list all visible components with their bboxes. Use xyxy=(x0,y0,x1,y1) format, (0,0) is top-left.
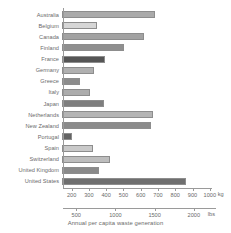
category-label: Canada xyxy=(0,34,62,40)
chart-row: Spain xyxy=(0,143,231,154)
category-label: Italy xyxy=(0,89,62,95)
category-label: Spain xyxy=(0,145,62,151)
bar-track xyxy=(62,120,231,131)
bar xyxy=(62,22,97,29)
chart-row: New Zealand xyxy=(0,120,231,131)
chart-row: Netherlands xyxy=(0,109,231,120)
bar xyxy=(62,178,186,185)
category-label: United States xyxy=(0,178,62,184)
bar xyxy=(62,89,90,96)
x-tick-label-kg: 200 xyxy=(67,192,76,199)
category-label: Australia xyxy=(0,12,62,18)
bar xyxy=(62,33,144,40)
bar xyxy=(62,122,151,129)
category-label: Belgium xyxy=(0,23,62,29)
bar-track xyxy=(62,9,231,20)
category-label: Switzerland xyxy=(0,156,62,162)
x-tick-lbs xyxy=(155,208,156,211)
bar-track xyxy=(62,20,231,31)
bar-track xyxy=(62,87,231,98)
x-tick-kg xyxy=(210,188,211,191)
bar-track xyxy=(62,31,231,42)
bar-track xyxy=(62,76,231,87)
chart-row: United Kingdom xyxy=(0,165,231,176)
category-label: Portugal xyxy=(0,134,62,140)
x-tick-kg xyxy=(106,188,107,191)
x-tick-label-lbs: 500 xyxy=(72,212,81,219)
bar xyxy=(62,44,124,51)
bar xyxy=(62,56,105,63)
bar-track xyxy=(62,131,231,142)
x-tick-label-kg: 1000 xyxy=(204,192,216,199)
x-tick-kg xyxy=(175,188,176,191)
chart-row: Italy xyxy=(0,87,231,98)
chart-row: Japan xyxy=(0,98,231,109)
x-axis-unit-lbs: lbs xyxy=(208,211,215,218)
bar xyxy=(62,156,110,163)
bar xyxy=(62,11,155,18)
x-tick-kg xyxy=(72,188,73,191)
x-tick-kg xyxy=(193,188,194,191)
x-tick-lbs xyxy=(76,208,77,211)
chart-row: Canada xyxy=(0,31,231,42)
category-label: Netherlands xyxy=(0,112,62,118)
x-tick-kg xyxy=(141,188,142,191)
chart-row: Greece xyxy=(0,76,231,87)
bar xyxy=(62,100,104,107)
category-label: New Zealand xyxy=(0,123,62,129)
x-axis-title: Annual per capita waste generation xyxy=(0,219,231,227)
chart-row: Australia xyxy=(0,9,231,20)
category-label: Finland xyxy=(0,45,62,51)
bar-chart: AustraliaBelgiumCanadaFinlandFranceGerma… xyxy=(0,0,231,233)
x-tick-label-lbs: 2000 xyxy=(188,212,200,219)
x-tick-kg xyxy=(89,188,90,191)
bar-track xyxy=(62,54,231,65)
bar-track xyxy=(62,176,231,187)
x-tick-kg xyxy=(123,188,124,191)
category-label: Greece xyxy=(0,78,62,84)
chart-plot-area: AustraliaBelgiumCanadaFinlandFranceGerma… xyxy=(0,9,231,187)
category-label: Germany xyxy=(0,67,62,73)
x-tick-label-kg: 300 xyxy=(84,192,93,199)
x-tick-label-kg: 400 xyxy=(102,192,111,199)
chart-row: Switzerland xyxy=(0,154,231,165)
x-tick-label-kg: 600 xyxy=(136,192,145,199)
chart-row: Germany xyxy=(0,65,231,76)
x-tick-kg xyxy=(158,188,159,191)
category-label: Japan xyxy=(0,101,62,107)
category-label: United Kingdom xyxy=(0,167,62,173)
x-axis-lbs: 500100015002000lbs xyxy=(63,208,216,209)
bar xyxy=(62,145,93,152)
x-tick-label-kg: 900 xyxy=(188,192,197,199)
x-tick-lbs xyxy=(115,208,116,211)
bar xyxy=(62,67,94,74)
x-tick-label-lbs: 1000 xyxy=(109,212,121,219)
bar-track xyxy=(62,42,231,53)
x-tick-lbs xyxy=(194,208,195,211)
bar-track xyxy=(62,109,231,120)
x-tick-label-lbs: 1500 xyxy=(148,212,160,219)
x-axis-unit-kg: kg xyxy=(218,191,224,198)
bar xyxy=(62,167,99,174)
x-tick-label-kg: 700 xyxy=(153,192,162,199)
x-tick-label-kg: 800 xyxy=(171,192,180,199)
bar-track xyxy=(62,98,231,109)
chart-row: France xyxy=(0,54,231,65)
category-label: France xyxy=(0,56,62,62)
bar-track xyxy=(62,143,231,154)
chart-row: Portugal xyxy=(0,131,231,142)
bar-track xyxy=(62,65,231,76)
x-axis-kg: 2003004005006007008009001000kg xyxy=(63,188,212,189)
y-axis-line xyxy=(63,8,64,188)
chart-row: Belgium xyxy=(0,20,231,31)
bar xyxy=(62,78,80,85)
bar xyxy=(62,111,153,118)
bar-track xyxy=(62,154,231,165)
bar-track xyxy=(62,165,231,176)
chart-row: Finland xyxy=(0,42,231,53)
x-tick-label-kg: 500 xyxy=(119,192,128,199)
chart-row: United States xyxy=(0,176,231,187)
